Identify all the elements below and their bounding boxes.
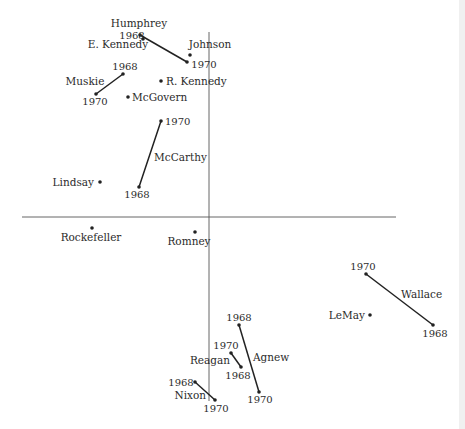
page-edge-shadow (459, 0, 465, 429)
romney-label: Romney (167, 235, 210, 247)
nixon-year-to-label: 1970 (203, 403, 228, 414)
nixon-year-from-label: 1968 (168, 377, 193, 388)
rockefeller-label: Rockefeller (61, 231, 123, 243)
reagan-1968-marker (239, 365, 243, 369)
trajectory-wallace: Wallace19681970 (350, 261, 447, 339)
reagan-year-from-label: 1968 (225, 370, 250, 381)
nixon-1968-marker (193, 380, 197, 384)
reagan-label: Reagan (190, 354, 230, 366)
mcgovern-marker (126, 95, 130, 99)
scaling-map-figure: Humphrey19681970Muskie19681970McCarthy19… (0, 0, 465, 429)
trajectory-nixon: Nixon19681970 (168, 377, 228, 414)
r-kennedy-label: R. Kennedy (166, 75, 227, 87)
lindsay-label: Lindsay (53, 176, 94, 188)
humphrey-1970-marker (185, 60, 189, 64)
rockefeller-marker (90, 226, 94, 230)
johnson-marker (188, 53, 192, 57)
muskie-1968-marker (121, 72, 125, 76)
trajectory-layer: Humphrey19681970Muskie19681970McCarthy19… (66, 17, 448, 414)
humphrey-label: Humphrey (111, 17, 168, 29)
point-lemay: LeMay (329, 309, 372, 321)
point-rockefeller: Rockefeller (61, 226, 123, 243)
point-e-kennedy: E. Kennedy (88, 37, 149, 50)
lemay-label: LeMay (329, 309, 365, 321)
wallace-1970-marker (364, 272, 368, 276)
romney-marker (193, 230, 197, 234)
reagan-year-to-label: 1970 (213, 340, 238, 351)
trajectory-mccarthy: McCarthy19681970 (124, 116, 207, 200)
wallace-1968-marker (431, 323, 435, 327)
muskie-year-to-label: 1970 (82, 96, 107, 107)
wallace-year-from-label: 1968 (422, 328, 447, 339)
mccarthy-year-to-label: 1970 (165, 116, 190, 127)
nixon-label: Nixon (174, 389, 206, 401)
wallace-year-to-label: 1970 (350, 261, 375, 272)
scaling-map-plot: Humphrey19681970Muskie19681970McCarthy19… (0, 0, 465, 429)
agnew-year-to-label: 1970 (247, 394, 272, 405)
humphrey-year-to-label: 1970 (191, 59, 216, 70)
reagan-trajectory-line (231, 353, 241, 367)
muskie-year-from-label: 1968 (112, 61, 137, 72)
mccarthy-year-from-label: 1968 (124, 189, 149, 200)
point-r-kennedy: R. Kennedy (159, 75, 227, 87)
point-johnson: Johnson (188, 38, 232, 57)
agnew-1968-marker (237, 323, 241, 327)
point-mcgovern: McGovern (126, 91, 187, 103)
mcgovern-label: McGovern (132, 91, 188, 103)
mccarthy-1970-marker (159, 119, 163, 123)
point-lindsay: Lindsay (53, 176, 102, 188)
trajectory-reagan: Reagan19681970 (190, 340, 251, 381)
wallace-label: Wallace (401, 288, 442, 300)
e-kennedy-label: E. Kennedy (88, 38, 149, 50)
muskie-label: Muskie (66, 75, 105, 87)
nixon-1970-marker (213, 398, 217, 402)
agnew-label: Agnew (252, 351, 289, 363)
trajectory-muskie: Muskie19681970 (66, 61, 138, 107)
r-kennedy-marker (159, 79, 163, 83)
agnew-year-from-label: 1968 (226, 312, 251, 323)
lindsay-marker (98, 180, 102, 184)
johnson-label: Johnson (188, 38, 232, 50)
mccarthy-label: McCarthy (154, 151, 207, 163)
point-romney: Romney (167, 230, 210, 247)
lemay-marker (368, 313, 372, 317)
